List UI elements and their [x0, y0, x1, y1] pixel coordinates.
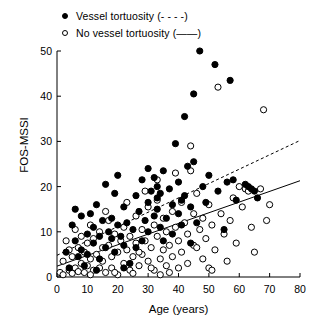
x-tick-label: 80: [288, 284, 312, 295]
x-tick-label: 20: [106, 284, 130, 295]
data-points-no-vessel-tortuosity: [57, 84, 273, 278]
y-axis-label: FOS-MSSI: [18, 100, 30, 190]
y-tick-label: 50: [30, 46, 52, 57]
x-tick-label: 70: [258, 284, 282, 295]
plot-canvas: [57, 51, 300, 277]
x-axis-label: Age (years): [57, 303, 300, 315]
legend-label-vessel-tortuosity: Vessel tortuosity (- - - -): [72, 10, 188, 22]
x-tick-label: 30: [136, 284, 160, 295]
scatter-plot-figure: Vessel tortuosity (- - - -) No vessel to…: [0, 0, 323, 332]
x-tick-label: 0: [45, 284, 69, 295]
chart-legend: Vessel tortuosity (- - - -) No vessel to…: [58, 7, 288, 41]
plot-area: [57, 51, 300, 277]
filled-circle-marker-icon: [58, 13, 72, 19]
x-tick-label: 50: [197, 284, 221, 295]
legend-item-no-vessel-tortuosity: No vessel tortuosity (——): [58, 24, 288, 41]
y-tick-label: 20: [30, 182, 52, 193]
y-tick-label: 10: [30, 227, 52, 238]
legend-item-vessel-tortuosity: Vessel tortuosity (- - - -): [58, 7, 288, 24]
y-tick-label: 30: [30, 136, 52, 147]
y-tick-label: 0: [30, 272, 52, 283]
x-tick-label: 10: [75, 284, 99, 295]
open-circle-marker-icon: [58, 30, 72, 36]
x-tick-label: 40: [167, 284, 191, 295]
y-tick-label: 40: [30, 91, 52, 102]
legend-label-no-vessel-tortuosity: No vessel tortuosity (——): [72, 27, 201, 39]
x-tick-label: 60: [227, 284, 251, 295]
